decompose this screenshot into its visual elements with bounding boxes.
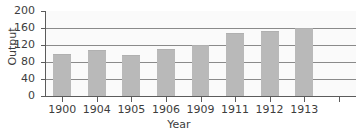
- bar-chart-figure: Output 04080120160200 190019041905190619…: [0, 0, 361, 137]
- bar: [295, 28, 313, 96]
- x-tick-label: 1913: [282, 103, 326, 116]
- bar: [192, 45, 210, 96]
- y-axis-line: [45, 11, 46, 96]
- x-tick-mark: [339, 97, 340, 102]
- bar: [88, 50, 106, 96]
- y-tick-mark: [41, 62, 45, 63]
- x-tick-mark: [304, 97, 305, 102]
- y-tick-label: 0: [5, 89, 35, 102]
- x-tick-mark: [235, 97, 236, 102]
- y-tick-label: 80: [5, 55, 35, 68]
- y-tick-mark: [41, 45, 45, 46]
- y-tick-label: 120: [5, 38, 35, 51]
- bars-group: [45, 11, 356, 96]
- plot-area: [45, 11, 356, 96]
- y-tick-mark: [41, 11, 45, 12]
- bar: [261, 31, 279, 96]
- x-tick-mark: [131, 97, 132, 102]
- y-tick-label: 200: [5, 4, 35, 17]
- bar: [53, 54, 71, 97]
- bar: [157, 49, 175, 96]
- x-tick-mark: [97, 97, 98, 102]
- x-tick-mark: [166, 97, 167, 102]
- y-tick-label: 160: [5, 21, 35, 34]
- x-tick-mark: [270, 97, 271, 102]
- x-tick-mark: [62, 97, 63, 102]
- y-tick-mark: [41, 79, 45, 80]
- bar: [122, 55, 140, 96]
- y-tick-mark: [41, 96, 45, 97]
- y-tick-label: 40: [5, 72, 35, 85]
- bar: [226, 33, 244, 96]
- x-axis-title: Year: [45, 118, 313, 131]
- y-tick-mark: [41, 28, 45, 29]
- x-tick-mark: [201, 97, 202, 102]
